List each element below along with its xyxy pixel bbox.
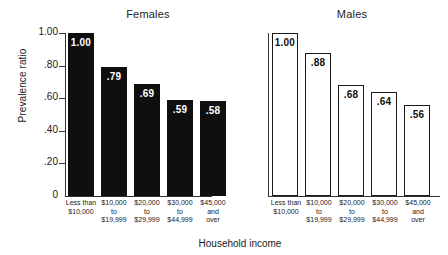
- category-label: $45,000 and over: [192, 199, 234, 225]
- bar-value-label: 1.00: [273, 37, 297, 48]
- y-tick-mark: [59, 66, 65, 67]
- panel-title-females: Females: [98, 8, 198, 20]
- bar-value-label: .68: [339, 89, 363, 100]
- bar-value-label: .79: [102, 71, 126, 82]
- bar-females-3: .69: [134, 84, 160, 196]
- panel-title-males: Males: [302, 8, 402, 20]
- bar-males-5: .56: [404, 105, 430, 196]
- y-tick-mark: [59, 98, 65, 99]
- y-tick-label: 0: [22, 190, 58, 200]
- bar-value-label: .64: [372, 96, 396, 107]
- bar-males-3: .68: [338, 85, 364, 196]
- y-tick-label: .60: [22, 92, 58, 102]
- bar-value-label: .88: [306, 57, 330, 68]
- bar-females-5: .58: [200, 101, 226, 196]
- bar-females-2: .79: [101, 67, 127, 196]
- bar-value-label: .58: [201, 105, 225, 116]
- bar-value-label: .59: [168, 104, 192, 115]
- bar-males-2: .88: [305, 53, 331, 196]
- bar-females-1: 1.00: [68, 33, 94, 196]
- bar-females-4: .59: [167, 100, 193, 196]
- prevalence-ratio-bar-chart: Females Males Prevalence ratio 1.00.80.6…: [0, 0, 448, 255]
- x-axis-line-females: [65, 196, 212, 197]
- y-tick-label: .20: [22, 157, 58, 167]
- bar-value-label: .56: [405, 109, 429, 120]
- males-panel-axis-line: [268, 33, 269, 196]
- y-tick-mark: [59, 131, 65, 132]
- y-tick-label: .40: [22, 125, 58, 135]
- bar-males-4: .64: [371, 92, 397, 196]
- y-tick-mark: [59, 163, 65, 164]
- y-tick-label: .80: [22, 60, 58, 70]
- plot-area-males: 1.00.88.68.64.56: [270, 33, 438, 196]
- x-axis-line-males: [268, 196, 440, 197]
- bar-males-1: 1.00: [272, 33, 298, 196]
- x-axis-label: Household income: [170, 238, 310, 249]
- y-tick-label: 1.00: [22, 27, 58, 37]
- y-tick-mark: [59, 33, 65, 34]
- plot-area-females: 1.00.79.69.59.58: [66, 33, 211, 196]
- bar-value-label: .69: [135, 88, 159, 99]
- category-label: $45,000 and over: [397, 199, 439, 225]
- bar-value-label: 1.00: [69, 37, 93, 48]
